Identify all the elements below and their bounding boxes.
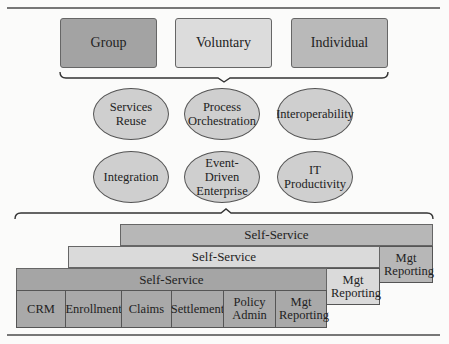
front-self-service-bar: Self-Service (16, 268, 327, 291)
it-productivity-label: IT Productivity (283, 163, 347, 191)
interoperability-label: Interoperability (276, 107, 354, 121)
ellipse-event-driven-enterprise: Event-Driven Enterprise (184, 151, 260, 203)
mgt-reporting-label: Mgt Reporting (279, 296, 323, 322)
settlement-label: Settlement (171, 303, 224, 316)
module-settlement: Settlement (171, 290, 224, 328)
services-reuse-label: Services Reuse (105, 100, 157, 128)
ellipse-interoperability: Interoperability (277, 88, 353, 140)
module-crm: CRM (16, 290, 66, 328)
policy-admin-label: Policy Admin (230, 296, 270, 322)
ellipse-services-reuse: Services Reuse (93, 88, 169, 140)
back-mgt-reporting: Mgt Reporting (379, 246, 433, 283)
bottom-rule (7, 334, 440, 336)
middle-mgt-reporting-label: Mgt Reporting (331, 274, 375, 300)
back-mgt-reporting-label: Mgt Reporting (384, 252, 428, 278)
crm-label: CRM (27, 303, 55, 316)
enrollment-label: Enrollment (65, 303, 121, 316)
front-self-service-label: Self-Service (139, 272, 203, 288)
ellipse-process-orchestration: Process Orchestration (184, 88, 260, 140)
back-self-service-bar: Self-Service (120, 224, 433, 246)
middle-mgt-reporting: Mgt Reporting (326, 268, 380, 305)
module-enrollment: Enrollment (65, 290, 122, 328)
middle-self-service-bar: Self-Service (68, 246, 380, 268)
back-self-service-label: Self-Service (244, 227, 308, 243)
module-mgt-reporting: Mgt Reporting (275, 290, 327, 328)
event-driven-enterprise-label: Event-Driven Enterprise (189, 156, 255, 198)
integration-label: Integration (104, 170, 159, 184)
process-orchestration-label: Process Orchestration (187, 100, 257, 128)
ellipse-it-productivity: IT Productivity (277, 151, 353, 203)
module-claims: Claims (121, 290, 172, 328)
ellipse-integration: Integration (93, 151, 169, 203)
middle-self-service-label: Self-Service (192, 249, 256, 265)
module-policy-admin: Policy Admin (223, 290, 276, 328)
claims-label: Claims (129, 303, 164, 316)
